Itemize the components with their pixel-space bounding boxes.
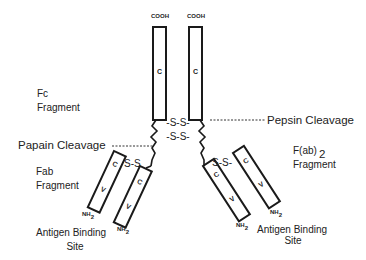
disulfide-bond-arm-right: S-S- (212, 157, 232, 168)
hinge-right (199, 120, 205, 166)
fc-region: COOH COOH C C (151, 13, 205, 120)
nh2-terminals: NH2 NH2 NH2 NH2 (82, 209, 283, 235)
annotations: Fc Fragment Pepsin Cleavage Papain Cleav… (18, 88, 354, 252)
hinge-left (151, 120, 157, 166)
pepsin-cleavage-label: Pepsin Cleavage (267, 114, 354, 126)
cooh-label-left: COOH (151, 13, 169, 19)
hinge-region: -S-S- -S-S- (151, 117, 205, 166)
nh2-label: NH2 (236, 222, 249, 231)
fab-arm-left: C V C V S-S (88, 151, 152, 228)
fab-arm-right: C V C V S-S- (203, 146, 280, 221)
fc-fragment-label: Fragment (37, 102, 80, 113)
nh2-label: NH2 (82, 211, 95, 220)
disulfide-bond-hinge-1: -S-S- (166, 117, 189, 128)
constant-domain-label: C (193, 68, 198, 75)
nh2-label: NH2 (117, 226, 130, 235)
fab2-fragment-label: F(ab)2 (293, 145, 325, 160)
constant-domain-label: C (157, 68, 162, 75)
fab2-fragment-label: Fragment (293, 159, 336, 170)
cooh-label-right: COOH (187, 13, 205, 19)
antigen-binding-site-left: Antigen Binding (36, 227, 106, 238)
fab-fragment-label: Fab (36, 166, 54, 177)
disulfide-bond-arm-left: S-S (124, 158, 141, 169)
nh2-label: NH2 (270, 209, 283, 218)
antibody-diagram: COOH COOH C C -S-S- -S-S- C V C V S-S C (0, 0, 366, 260)
fab-fragment-label: Fragment (36, 180, 79, 191)
papain-cleavage-label: Papain Cleavage (18, 139, 106, 151)
fc-fragment-label: Fc (37, 88, 48, 99)
light-chain-left (88, 151, 126, 213)
antigen-binding-site-right: Antigen Binding (257, 224, 327, 235)
heavy-chain-fab-left (114, 166, 152, 228)
antigen-binding-site-left: Site (66, 241, 84, 252)
antigen-binding-site-right: Site (284, 235, 302, 246)
disulfide-bond-hinge-2: -S-S- (166, 131, 189, 142)
